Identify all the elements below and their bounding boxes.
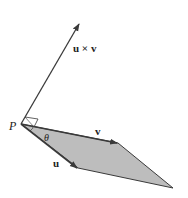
cross-product-diagram: u × v v u P θ xyxy=(0,0,188,198)
point-label: P xyxy=(8,119,17,133)
cross-product-vector xyxy=(21,24,79,124)
cross-label: u × v xyxy=(73,42,97,54)
u-label: u xyxy=(53,157,59,169)
angle-label: θ xyxy=(44,132,49,143)
v-label: v xyxy=(95,125,101,137)
